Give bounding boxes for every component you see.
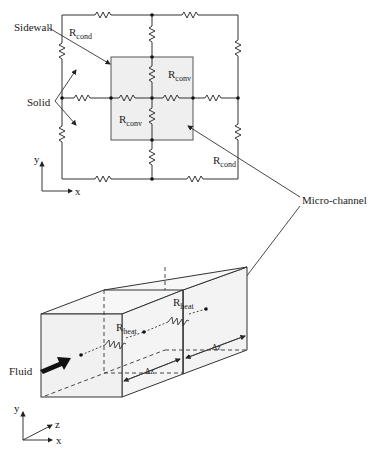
solid-arrow-down [55,101,76,125]
r-cond-bottom-label: Rcond [213,154,236,169]
top-axis-x-label: x [75,185,81,197]
bottom-axis-z-label: z [55,418,60,430]
top-axis-y-label: y [34,153,40,165]
fluid-label: Fluid [9,365,33,377]
dz-left-label: Δz [145,367,154,376]
r-cond-top-label: Rcond [69,26,92,41]
solid-arrow-up [55,70,76,101]
thermal-resistance-network-diagram: Sidewall Rcond Rconv Rconv Rcond Solid y… [0,0,378,455]
top-axes-icon [42,162,72,191]
micro-channel-arrow-top [188,126,300,197]
bottom-axis-y-label: y [14,402,20,414]
dz-right-label: Δz [212,343,221,352]
micro-channel-label: Micro-channel [302,194,367,206]
bottom-axes-icon [23,412,52,440]
bottom-axis-x-label: x [56,434,62,446]
sidewall-label: Sidewall [14,21,53,33]
solid-label: Solid [27,96,51,108]
